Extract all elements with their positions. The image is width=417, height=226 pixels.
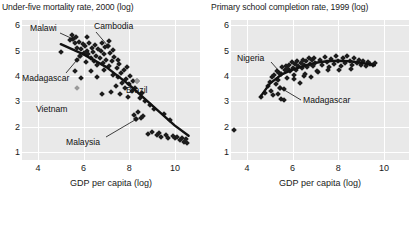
annotation-label-nigeria: Nigeria (237, 54, 264, 63)
plot-overlay (22, 20, 200, 160)
y-axis-tick-label: 1 (2, 148, 20, 157)
figure-root: Under-five mortality rate, 2000 (log) Ma… (0, 0, 417, 226)
y-axis-tick-label: 4 (211, 72, 229, 81)
annotation-leader-line (60, 33, 73, 39)
annotation-label-malawi: Malawi (30, 24, 57, 33)
y-axis-tick-label: 2 (211, 123, 229, 132)
y-axis-tick-label: 4 (2, 72, 20, 81)
x-axis-tick-labels: 46810 (22, 163, 200, 175)
annotation-label-madagascar: Madagascar (22, 74, 69, 83)
x-axis-tick-label: 4 (28, 163, 48, 173)
annotation-label-madagascar: Madagascar (303, 96, 350, 105)
y-axis-tick-label: 3 (211, 97, 229, 106)
annotation-leader-line (106, 119, 136, 137)
annotation-leader-line (280, 88, 301, 101)
chart-title: Under-five mortality rate, 2000 (log) (2, 2, 133, 13)
x-axis-tick-label: 10 (165, 163, 185, 173)
annotation-label-vietnam: Vietnam (36, 105, 67, 114)
chart-panel-under-five-mortality: Under-five mortality rate, 2000 (log) Ma… (0, 0, 208, 226)
y-axis-tick-labels: 123456 (209, 20, 229, 160)
x-axis-tick-label: 8 (328, 163, 348, 173)
annotation-leader-line (66, 56, 80, 73)
annotation-leader-line (96, 32, 108, 46)
annotation-leader-line (271, 62, 281, 74)
y-axis-tick-label: 2 (2, 123, 20, 132)
plot-overlay (231, 20, 409, 160)
x-axis-title: GDP per capita (log) (231, 178, 409, 188)
y-axis-tick-label: 3 (2, 97, 20, 106)
y-axis-tick-labels: 123456 (0, 20, 20, 160)
x-axis-title: GDP per capita (log) (22, 178, 200, 188)
chart-title: Primary school completion rate, 1999 (lo… (211, 2, 368, 13)
x-axis-tick-label: 10 (374, 163, 394, 173)
trend-line (261, 61, 375, 97)
plot-area: MalawiCambodiaMadagascarVietnamBrazilMal… (22, 20, 200, 160)
plot-area: NigeriaMadagascar (231, 20, 409, 160)
y-axis-tick-label: 1 (211, 148, 229, 157)
x-axis-tick-labels: 46810 (231, 163, 409, 175)
x-axis-tick-label: 6 (74, 163, 94, 173)
x-axis-tick-label: 8 (119, 163, 139, 173)
y-axis-tick-label: 5 (211, 47, 229, 56)
x-axis-tick-label: 6 (283, 163, 303, 173)
y-axis-tick-label: 6 (211, 21, 229, 30)
trend-line (61, 44, 189, 136)
y-axis-tick-label: 5 (2, 47, 20, 56)
annotation-label-brazil: Brazil (126, 86, 148, 95)
annotation-label-cambodia: Cambodia (94, 22, 133, 31)
annotation-label-malaysia: Malaysia (66, 138, 100, 147)
chart-panel-primary-school-completion: Primary school completion rate, 1999 (lo… (209, 0, 417, 226)
x-axis-tick-label: 4 (237, 163, 257, 173)
y-axis-tick-label: 6 (2, 21, 20, 30)
